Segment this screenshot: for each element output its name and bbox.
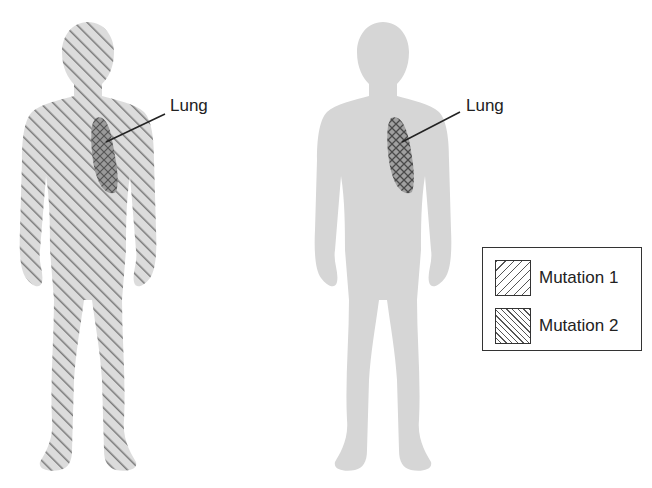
- right-lung-label: Lung: [466, 96, 504, 116]
- left-body-figure: [20, 22, 157, 471]
- right-body-figure: [315, 22, 452, 471]
- left-lung-label: Lung: [170, 96, 208, 116]
- mutation-2-swatch-icon: [495, 308, 531, 344]
- mutation-1-swatch-icon: [495, 260, 531, 296]
- legend-label: Mutation 1: [539, 268, 618, 288]
- legend-label: Mutation 2: [539, 316, 618, 336]
- diagram-canvas: [0, 0, 652, 488]
- legend-item-mutation-2: Mutation 2: [495, 308, 618, 344]
- legend-item-mutation-1: Mutation 1: [495, 260, 618, 296]
- legend-box: Mutation 1 Mutation 2: [482, 247, 642, 351]
